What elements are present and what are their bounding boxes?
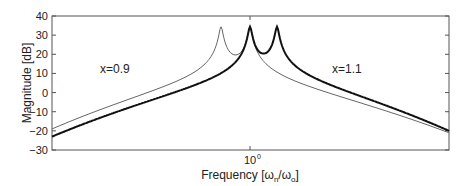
y-tick-label: −30	[29, 144, 48, 156]
plot-labels: 100Frequency [ωn/ωo]Magnitude [dB]x=0.9x…	[20, 43, 362, 184]
curve-annotation: x=0.9	[100, 62, 130, 76]
y-tick-label: 0	[42, 87, 48, 99]
plot-frame	[52, 16, 449, 150]
x-tick-label: 10	[244, 154, 256, 166]
curve-annotation: x=1.1	[332, 62, 362, 76]
x-tick-exponent: 0	[257, 153, 261, 160]
y-tick-label: −20	[29, 125, 48, 137]
y-tick-label: 30	[36, 29, 48, 41]
curve-x-0-9	[52, 27, 449, 133]
x-axis-label: Frequency [ωn/ωo]	[201, 168, 299, 184]
plot-axes: 403020100−10−20−30	[29, 10, 449, 156]
magnitude-chart: 403020100−10−20−30 100Frequency [ωn/ωo]M…	[0, 0, 470, 186]
curve-x-1-1	[52, 27, 449, 137]
y-tick-label: 20	[36, 48, 48, 60]
y-tick-label: 40	[36, 10, 48, 22]
y-tick-label: 10	[36, 67, 48, 79]
plot-curves	[52, 27, 449, 137]
y-axis-label: Magnitude [dB]	[20, 43, 34, 124]
